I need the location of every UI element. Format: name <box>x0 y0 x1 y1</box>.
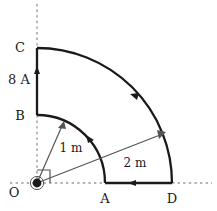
label-inner-radius-1m: 1 m <box>60 141 83 155</box>
origin-dot <box>33 179 42 188</box>
label-O: O <box>9 185 20 200</box>
label-A: A <box>99 191 110 206</box>
diagram-canvas: C B 8 A O A D 1 m 2 m <box>0 0 217 211</box>
inner-arc-direction-arrow <box>86 135 94 143</box>
label-B: B <box>15 108 25 123</box>
label-D: D <box>167 191 177 206</box>
bottom-direction-arrow-left <box>128 180 136 186</box>
label-C: C <box>15 40 25 55</box>
outer-arc-CD <box>37 48 172 183</box>
physics-diagram-figure: C B 8 A O A D 1 m 2 m <box>0 0 217 211</box>
current-arrow-up <box>34 66 40 92</box>
label-outer-radius-2m: 2 m <box>124 156 147 170</box>
label-current-8A: 8 A <box>8 72 30 87</box>
outer-arc-direction-arrow <box>130 93 139 100</box>
